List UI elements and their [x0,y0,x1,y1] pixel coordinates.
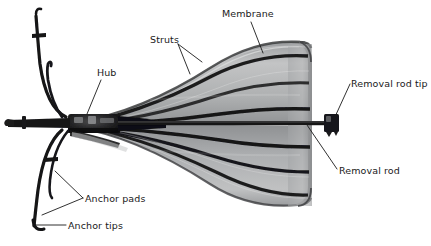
label-anchor-tips: Anchor tips [68,220,123,231]
label-hub: Hub [97,67,117,78]
device-photograph [0,0,431,246]
label-struts: Struts [150,34,179,45]
label-removal-rod-tip: Removal rod tip [351,78,428,89]
label-removal-rod: Removal rod [339,165,400,176]
label-membrane: Membrane [222,8,274,19]
annotated-device-figure: Membrane Struts Hub Removal rod tip Remo… [0,0,431,246]
label-anchor-pads: Anchor pads [85,193,145,204]
removal-rod-tip [324,114,339,137]
